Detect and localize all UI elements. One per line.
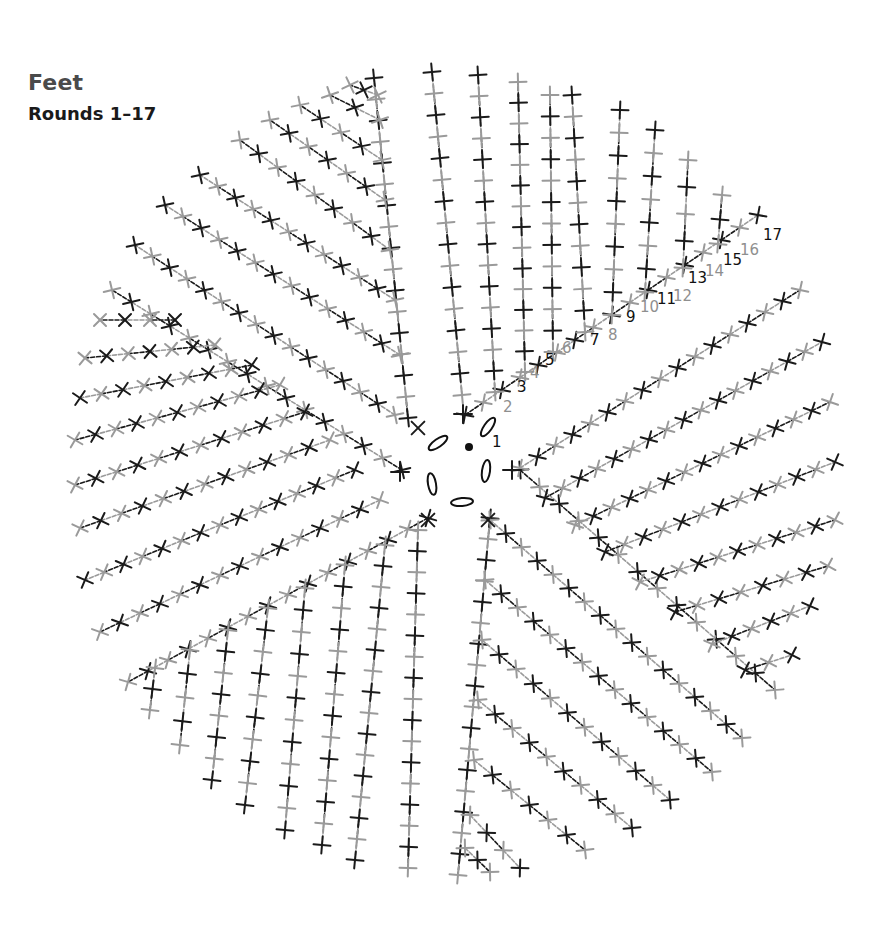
single-crochet-icon	[470, 636, 487, 653]
single-crochet-icon	[357, 747, 374, 764]
stitch-line	[222, 302, 239, 313]
single-crochet-icon	[78, 351, 91, 364]
single-crochet-icon	[603, 499, 619, 515]
single-crochet-icon	[761, 655, 776, 670]
single-crochet-icon	[193, 525, 209, 541]
single-crochet-icon	[252, 549, 268, 565]
single-crochet-icon	[287, 690, 304, 707]
single-crochet-icon	[814, 334, 830, 350]
stitch-line	[657, 588, 677, 605]
single-crochet-icon	[373, 579, 390, 596]
stitch-line	[783, 290, 801, 301]
stitch-line	[324, 255, 342, 266]
single-crochet-icon	[366, 70, 383, 87]
single-crochet-icon	[129, 416, 144, 431]
single-crochet-icon	[272, 539, 288, 555]
round-number-label: 17	[763, 226, 782, 244]
stitch-line	[259, 154, 278, 168]
stitch-line	[740, 215, 758, 228]
stitch-line	[235, 198, 253, 209]
single-crochet-icon	[424, 64, 441, 81]
single-crochet-icon	[298, 235, 315, 252]
single-crochet-icon	[655, 522, 671, 538]
single-crochet-icon	[476, 193, 493, 210]
stitch-line	[569, 588, 585, 602]
single-crochet-icon	[172, 586, 188, 602]
single-crochet-icon	[743, 621, 759, 637]
single-crochet-icon	[334, 258, 351, 275]
single-crochet-icon	[154, 541, 170, 557]
single-crochet-icon	[622, 491, 638, 507]
single-crochet-icon	[160, 652, 176, 668]
stitch-line	[334, 209, 353, 223]
chain-oval-icon	[427, 433, 450, 452]
single-crochet-icon	[347, 462, 363, 478]
stitch-line	[170, 326, 189, 338]
single-crochet-icon	[292, 97, 309, 114]
single-crochet-icon	[612, 102, 629, 119]
single-crochet-icon	[644, 168, 661, 185]
single-crochet-icon	[239, 462, 254, 477]
single-crochet-icon	[713, 447, 729, 463]
single-crochet-icon	[344, 214, 361, 231]
single-crochet-icon	[483, 320, 500, 337]
stitch-line	[511, 790, 530, 805]
stitch-line	[330, 95, 355, 108]
stitch-line	[653, 785, 670, 800]
stitch-line	[183, 217, 201, 229]
round-number-label: 7	[590, 331, 600, 349]
single-crochet-icon	[361, 705, 378, 722]
single-crochet-icon	[767, 420, 783, 436]
stitch-line	[615, 690, 631, 704]
single-crochet-icon	[802, 598, 818, 614]
stitch-line	[550, 698, 567, 713]
single-crochet-icon	[632, 574, 647, 589]
single-crochet-icon	[542, 151, 559, 168]
stitch-line	[503, 850, 520, 868]
single-crochet-icon	[693, 507, 709, 523]
single-crochet-icon	[265, 266, 282, 283]
single-crochet-icon	[210, 707, 227, 724]
single-crochet-icon	[360, 543, 376, 559]
single-crochet-icon	[135, 549, 151, 565]
stitch-line	[128, 352, 150, 354]
stitch-line	[306, 243, 324, 254]
single-crochet-icon	[94, 387, 108, 401]
single-crochet-icon	[710, 392, 726, 408]
single-crochet-icon	[312, 520, 328, 536]
stitch-line	[289, 232, 307, 243]
single-crochet-icon	[172, 737, 189, 754]
stitch-line	[346, 320, 364, 332]
single-crochet-icon	[317, 361, 334, 378]
single-crochet-icon	[369, 395, 386, 412]
single-crochet-icon	[349, 831, 366, 848]
single-crochet-icon	[466, 678, 483, 695]
single-crochet-icon	[359, 726, 376, 743]
single-crochet-icon	[438, 214, 455, 231]
stitch-line	[268, 595, 288, 606]
single-crochet-icon	[513, 219, 530, 236]
single-crochet-icon	[206, 750, 223, 767]
single-crochet-icon	[211, 231, 228, 248]
single-crochet-icon	[543, 236, 560, 253]
single-crochet-icon	[202, 366, 216, 380]
single-crochet-icon	[691, 556, 706, 571]
stitch-line	[499, 655, 516, 670]
round-number-label: 2	[503, 398, 513, 416]
single-crochet-icon	[774, 293, 791, 310]
stitch-line	[573, 424, 591, 435]
stitch-line	[362, 146, 383, 160]
stitch-line	[567, 713, 584, 728]
single-crochet-icon	[610, 147, 627, 164]
single-crochet-icon	[515, 301, 532, 318]
single-crochet-icon	[73, 391, 87, 405]
stitch-line	[308, 147, 327, 160]
chain-oval-icon	[481, 460, 492, 483]
stitch-line	[660, 368, 678, 379]
stitch-line	[765, 301, 783, 312]
single-crochet-icon	[473, 130, 490, 147]
single-crochet-icon	[401, 796, 418, 813]
single-crochet-icon	[161, 259, 178, 276]
stitch-line	[128, 671, 148, 682]
single-crochet-icon	[515, 281, 532, 298]
